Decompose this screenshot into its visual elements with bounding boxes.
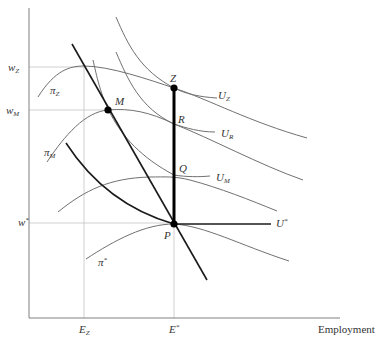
indifference-u-m xyxy=(93,60,210,177)
label-pi-star: π* xyxy=(98,257,107,268)
point-z xyxy=(170,84,177,91)
contract-curve-left xyxy=(66,143,174,224)
isoprofit-pi-star xyxy=(86,224,289,261)
y-tick-wm: wM xyxy=(6,105,19,118)
label-pi-m: πM xyxy=(44,147,55,160)
x-tick-ez: EZ xyxy=(79,324,90,337)
indifference-u-r xyxy=(116,52,215,132)
label-pi-z: πZ xyxy=(50,85,59,98)
label-q: Q xyxy=(179,163,187,174)
label-u-z: UZ xyxy=(218,90,230,103)
point-p xyxy=(170,220,177,227)
isoprofit-pi-mid xyxy=(58,177,277,212)
label-m: M xyxy=(115,96,124,107)
label-z: Z xyxy=(170,73,176,84)
y-tick-wz: wZ xyxy=(8,62,19,75)
x-axis-label: Employment xyxy=(318,324,375,335)
x-tick-estar: E* xyxy=(169,324,179,335)
label-u-r: UR xyxy=(221,128,233,141)
thick-curves xyxy=(66,44,271,280)
label-u-star: U* xyxy=(276,218,287,229)
y-tick-wstar: w* xyxy=(18,217,29,228)
label-p: P xyxy=(164,230,171,241)
point-m xyxy=(104,106,111,113)
guide-lines xyxy=(29,67,174,318)
label-u-m: UM xyxy=(216,172,230,185)
label-r: R xyxy=(178,114,185,125)
